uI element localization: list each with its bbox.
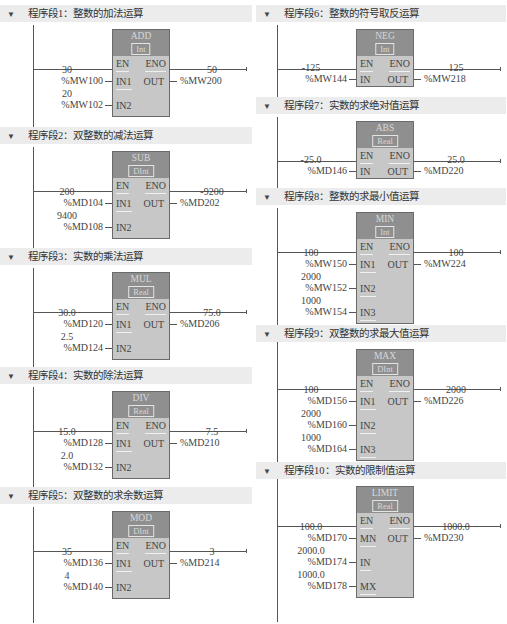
instruction-box-min[interactable]: MINIntENENOIN1IN2IN3OUT bbox=[356, 212, 414, 324]
instruction-box-abs[interactable]: ABSRealENENOINOUT bbox=[356, 121, 414, 179]
data-type-selector[interactable]: DInt bbox=[128, 525, 154, 537]
network-header[interactable]: ▼程序段7：实数的求绝对值运算 bbox=[256, 97, 506, 114]
input-operand[interactable]: %MD156 bbox=[308, 395, 347, 406]
input-value: 35 bbox=[42, 546, 92, 557]
input-operand[interactable]: %MD160 bbox=[308, 419, 347, 430]
pin-in1: IN1 bbox=[116, 438, 132, 449]
collapse-triangle-icon[interactable]: ▼ bbox=[260, 189, 274, 206]
input-operand[interactable]: %MW150 bbox=[305, 258, 347, 269]
output-operand[interactable]: %MD220 bbox=[424, 165, 463, 176]
input-operand[interactable]: %MW100 bbox=[61, 75, 103, 86]
instruction-box-div[interactable]: DIVRealENENOIN1IN2OUT bbox=[112, 391, 170, 479]
input-operand[interactable]: %MD140 bbox=[64, 581, 103, 592]
instruction-box-mul[interactable]: MULRealENENOIN1IN2OUT bbox=[112, 272, 170, 360]
instruction-box-sub[interactable]: SUBDIntENENOIN1IN2OUT bbox=[112, 151, 170, 239]
input-operand[interactable]: %MW152 bbox=[305, 282, 347, 293]
power-rail bbox=[33, 147, 34, 263]
network-header[interactable]: ▼程序段6：整数的符号取反运算 bbox=[256, 5, 506, 22]
network-title: 程序段1：整数的加法运算 bbox=[28, 8, 143, 19]
network-header[interactable]: ▼程序段10：实数的限制值运算 bbox=[256, 462, 506, 479]
input-wire bbox=[349, 562, 356, 563]
network-header[interactable]: ▼程序段3：实数的乘法运算 bbox=[0, 248, 252, 265]
input-operand[interactable]: %MD104 bbox=[64, 197, 103, 208]
collapse-triangle-icon[interactable]: ▼ bbox=[260, 98, 274, 115]
rung-end-icon bbox=[242, 189, 247, 193]
rung-end-icon bbox=[496, 250, 501, 254]
input-wire bbox=[349, 264, 356, 265]
input-operand[interactable]: %MD164 bbox=[308, 443, 347, 454]
collapse-triangle-icon[interactable]: ▼ bbox=[260, 6, 274, 23]
pin-in: IN bbox=[360, 74, 371, 85]
instruction-box-limit[interactable]: LIMITRealENENOMNINMXOUT bbox=[356, 486, 414, 598]
output-operand[interactable]: %MD214 bbox=[180, 557, 219, 568]
collapse-triangle-icon[interactable]: ▼ bbox=[260, 463, 274, 480]
output-wire bbox=[170, 203, 177, 204]
network-header[interactable]: ▼程序段1：整数的加法运算 bbox=[0, 5, 252, 22]
output-value: 50 bbox=[192, 64, 232, 75]
input-operand[interactable]: %MD120 bbox=[64, 318, 103, 329]
output-value: 125 bbox=[436, 62, 476, 73]
output-operand[interactable]: %MW200 bbox=[180, 75, 222, 86]
output-operand[interactable]: %MD210 bbox=[180, 437, 219, 448]
instruction-name: NEG bbox=[357, 31, 413, 41]
input-operand[interactable]: %MD174 bbox=[308, 556, 347, 567]
collapse-triangle-icon[interactable]: ▼ bbox=[4, 488, 18, 505]
collapse-triangle-icon[interactable]: ▼ bbox=[4, 128, 18, 145]
input-operand[interactable]: %MW154 bbox=[305, 306, 347, 317]
network-header[interactable]: ▼程序段8：整数的求最小值运算 bbox=[256, 188, 506, 205]
data-type-selector[interactable]: Real bbox=[372, 135, 398, 147]
pin-eno: ENO bbox=[145, 58, 166, 69]
output-operand[interactable]: %MW224 bbox=[424, 258, 466, 269]
output-wire bbox=[170, 563, 177, 564]
input-wire bbox=[105, 105, 112, 106]
instruction-box-max[interactable]: MAXDIntENENOIN1IN2IN3OUT bbox=[356, 349, 414, 461]
instruction-name: LIMIT bbox=[357, 488, 413, 498]
network-header[interactable]: ▼程序段5：双整数的求余数运算 bbox=[0, 487, 252, 504]
input-operand[interactable]: %MD124 bbox=[64, 342, 103, 353]
instruction-box-add[interactable]: ADDIntENENOIN1IN2OUT bbox=[112, 29, 170, 117]
pin-in1: IN1 bbox=[116, 76, 132, 87]
output-wire bbox=[414, 264, 421, 265]
data-type-selector[interactable]: Int bbox=[375, 226, 394, 238]
output-operand[interactable]: %MD202 bbox=[180, 197, 219, 208]
pin-in3: IN3 bbox=[360, 444, 376, 455]
pin-in2: IN2 bbox=[116, 100, 132, 111]
instruction-box-neg[interactable]: NEGIntENENOINOUT bbox=[356, 29, 414, 87]
collapse-triangle-icon[interactable]: ▼ bbox=[260, 326, 274, 343]
input-operand[interactable]: %MD178 bbox=[308, 580, 347, 591]
output-value: 100 bbox=[436, 247, 476, 258]
data-type-selector[interactable]: DInt bbox=[372, 363, 398, 375]
output-operand[interactable]: %MD230 bbox=[424, 532, 463, 543]
input-value: 30 bbox=[42, 64, 92, 75]
input-operand[interactable]: %MD136 bbox=[64, 557, 103, 568]
input-value: 4 bbox=[42, 570, 92, 581]
input-operand[interactable]: %MD170 bbox=[308, 532, 347, 543]
input-operand[interactable]: %MW144 bbox=[305, 73, 347, 84]
input-operand[interactable]: %MD108 bbox=[64, 221, 103, 232]
collapse-triangle-icon[interactable]: ▼ bbox=[4, 249, 18, 266]
data-type-selector[interactable]: Real bbox=[128, 405, 154, 417]
input-operand[interactable]: %MW102 bbox=[61, 99, 103, 110]
collapse-triangle-icon[interactable]: ▼ bbox=[4, 6, 18, 23]
data-type-selector[interactable]: Real bbox=[128, 286, 154, 298]
instruction-box-mod[interactable]: MODDIntENENOIN1IN2OUT bbox=[112, 511, 170, 599]
input-operand[interactable]: %MD132 bbox=[64, 461, 103, 472]
network-header[interactable]: ▼程序段2：双整数的减法运算 bbox=[0, 127, 252, 144]
input-operand[interactable]: %MD146 bbox=[308, 165, 347, 176]
collapse-triangle-icon[interactable]: ▼ bbox=[4, 368, 18, 385]
input-value: 30.0 bbox=[42, 307, 92, 318]
pin-in1: IN1 bbox=[116, 198, 132, 209]
output-operand[interactable]: %MD206 bbox=[180, 318, 219, 329]
data-type-selector[interactable]: Int bbox=[131, 43, 150, 55]
pin-out: OUT bbox=[387, 259, 408, 270]
input-wire bbox=[349, 538, 356, 539]
network-header[interactable]: ▼程序段9：双整数的求最大值运算 bbox=[256, 325, 506, 342]
input-operand[interactable]: %MD128 bbox=[64, 437, 103, 448]
data-type-selector[interactable]: Real bbox=[372, 500, 398, 512]
data-type-selector[interactable]: Int bbox=[375, 43, 394, 55]
network-header[interactable]: ▼程序段4：实数的除法运算 bbox=[0, 367, 252, 384]
output-operand[interactable]: %MW218 bbox=[424, 73, 466, 84]
data-type-selector[interactable]: DInt bbox=[128, 165, 154, 177]
output-operand[interactable]: %MD226 bbox=[424, 395, 463, 406]
input-wire bbox=[105, 443, 112, 444]
